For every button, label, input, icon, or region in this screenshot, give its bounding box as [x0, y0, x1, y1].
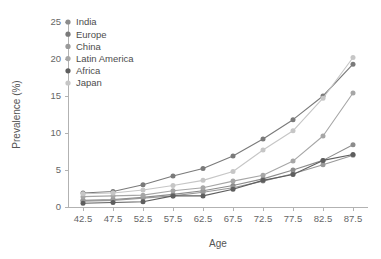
x-tick-label: 57.5	[164, 213, 183, 224]
chart-container: 0510152025 42.547.552.557.562.567.572.57…	[0, 0, 381, 259]
data-point	[111, 200, 116, 205]
legend-item-europe[interactable]: Europe	[65, 29, 106, 40]
series-africa	[81, 152, 356, 206]
x-tick-label: 62.5	[194, 213, 213, 224]
series-line	[83, 64, 353, 193]
data-point	[231, 179, 236, 184]
data-point	[321, 133, 326, 138]
y-tick-label: 20	[50, 53, 61, 64]
legend-marker-icon	[65, 32, 70, 37]
data-point	[351, 62, 356, 67]
x-axis: 42.547.552.557.562.567.572.577.582.587.5	[68, 207, 368, 224]
legend-label: Africa	[76, 65, 101, 76]
x-axis-title: Age	[209, 238, 227, 249]
data-point	[81, 201, 86, 206]
data-point	[261, 148, 266, 153]
data-point	[81, 191, 86, 196]
x-tick-label: 52.5	[134, 213, 153, 224]
legend-item-latin-america[interactable]: Latin America	[65, 53, 134, 64]
legend-item-africa[interactable]: Africa	[65, 65, 101, 76]
data-point	[291, 117, 296, 122]
legend-label: Latin America	[76, 53, 134, 64]
series-latin-america	[81, 91, 356, 200]
data-point	[321, 158, 326, 163]
legend-marker-icon	[65, 44, 70, 49]
data-point	[201, 185, 206, 190]
data-point	[201, 178, 206, 183]
series-line	[83, 93, 353, 197]
y-tick-label: 25	[50, 16, 61, 27]
y-tick-label: 0	[56, 201, 61, 212]
series-japan	[81, 55, 356, 196]
data-point	[171, 183, 176, 188]
data-point	[141, 182, 146, 187]
data-point	[351, 142, 356, 147]
data-point	[261, 178, 266, 183]
legend-label: Japan	[76, 77, 102, 88]
data-point	[201, 166, 206, 171]
data-point	[291, 172, 296, 177]
data-point	[111, 190, 116, 195]
legend-marker-icon	[65, 56, 70, 61]
data-point	[171, 173, 176, 178]
x-tick-label: 72.5	[254, 213, 273, 224]
legend-item-china[interactable]: China	[65, 41, 101, 52]
line-chart: 0510152025 42.547.552.557.562.567.572.57…	[0, 0, 381, 259]
series-india	[81, 142, 356, 203]
legend-marker-icon	[65, 19, 70, 24]
x-tick-label: 67.5	[224, 213, 243, 224]
x-tick-label: 82.5	[314, 213, 333, 224]
y-tick-label: 10	[50, 127, 61, 138]
data-point	[231, 169, 236, 174]
y-axis: 0510152025	[50, 16, 68, 212]
legend-item-japan[interactable]: Japan	[65, 77, 101, 88]
data-point	[231, 187, 236, 192]
data-point	[351, 152, 356, 157]
series-line	[83, 58, 353, 194]
legend-label: Europe	[76, 29, 107, 40]
data-point	[171, 193, 176, 198]
data-point	[141, 193, 146, 198]
y-axis-title: Prevalence (%)	[11, 80, 22, 148]
legend-label: China	[76, 41, 102, 52]
x-tick-label: 87.5	[344, 213, 363, 224]
chart-legend: IndiaEuropeChinaLatin AmericaAfricaJapan	[65, 16, 134, 88]
data-point	[231, 153, 236, 158]
x-tick-label: 47.5	[104, 213, 123, 224]
data-point	[171, 188, 176, 193]
data-point	[291, 159, 296, 164]
data-point	[351, 55, 356, 60]
y-tick-label: 5	[56, 164, 61, 175]
series-layer	[81, 55, 356, 206]
y-tick-label: 15	[50, 90, 61, 101]
data-point	[141, 199, 146, 204]
legend-label: India	[76, 16, 97, 27]
data-point	[261, 136, 266, 141]
legend-marker-icon	[65, 80, 70, 85]
data-point	[261, 173, 266, 178]
data-point	[321, 162, 326, 167]
data-point	[291, 128, 296, 133]
data-point	[351, 91, 356, 96]
legend-item-india[interactable]: India	[65, 16, 97, 27]
x-tick-label: 42.5	[74, 213, 93, 224]
data-point	[141, 187, 146, 192]
legend-marker-icon	[65, 68, 70, 73]
data-point	[201, 193, 206, 198]
x-tick-label: 77.5	[284, 213, 303, 224]
data-point	[321, 96, 326, 101]
